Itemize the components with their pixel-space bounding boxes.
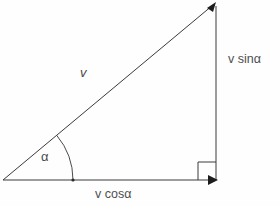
diagram-canvas [0,0,280,206]
right-angle-marker-icon [198,162,216,180]
hypotenuse-velocity-vector [3,5,213,180]
label-vertical-component: v sinα [228,53,261,66]
label-horizontal-component: v cosα [95,188,131,201]
hypotenuse-arrowhead-icon [207,2,216,12]
vector-diagram: v v sinα v cosα α [0,0,280,206]
angle-arc [57,135,73,180]
label-angle-alpha: α [41,150,49,163]
label-hypotenuse-v: v [80,66,87,79]
angle-arc-base-dot [71,178,74,181]
